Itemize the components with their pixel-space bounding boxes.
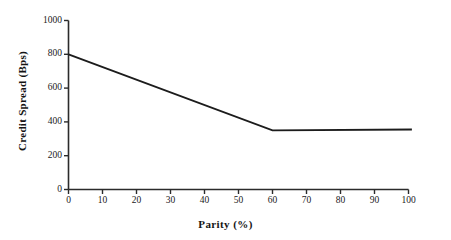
- x-tick-label: 40: [190, 196, 220, 206]
- x-tick-label: 30: [156, 196, 186, 206]
- y-tick-label: 1000: [32, 16, 62, 26]
- x-tick-label: 70: [292, 196, 322, 206]
- data-series-line: [69, 54, 412, 130]
- x-tick-label: 50: [224, 196, 254, 206]
- x-tick-label: 90: [360, 196, 390, 206]
- x-tick-label: 20: [122, 196, 152, 206]
- y-tick-label: 800: [32, 49, 62, 59]
- x-tick-label: 100: [394, 196, 424, 206]
- axis-group: [69, 21, 409, 190]
- x-tick-label: 10: [88, 196, 118, 206]
- x-axis-title: Parity (%): [0, 218, 451, 230]
- x-tick-label: 60: [258, 196, 288, 206]
- x-tick-label: 80: [326, 196, 356, 206]
- x-tick-label: 0: [54, 196, 84, 206]
- y-tick-label: 200: [32, 151, 62, 161]
- y-tick-label: 400: [32, 117, 62, 127]
- y-tick-label: 600: [32, 83, 62, 93]
- chart-container: 02004006008001000 0102030405060708090100…: [0, 0, 451, 240]
- y-tick-label: 0: [32, 185, 62, 195]
- y-axis-title: Credit Spread (Bps): [16, 31, 28, 171]
